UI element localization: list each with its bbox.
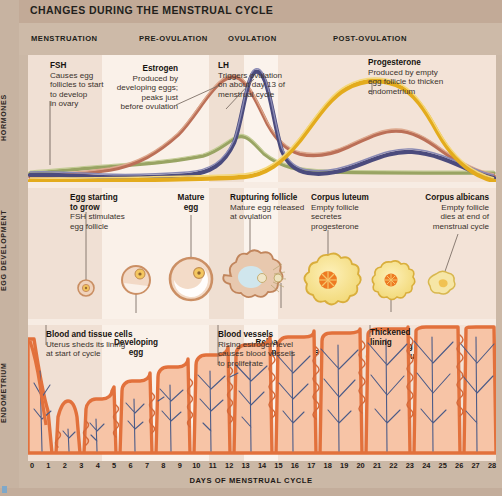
section-label-hormones: HORMONES — [0, 62, 18, 174]
day-tick-15: 15 — [274, 461, 282, 470]
note-blood-tissue-title: Blood and tissue cells — [46, 330, 176, 340]
note-corpus-luteum-l1: Empty follicle — [311, 203, 393, 213]
chart-canvas: FSH Causes egg follicles to start to dev… — [28, 55, 496, 461]
note-corpus-luteum-l3: progesterone — [311, 222, 393, 232]
bottom-margin — [0, 488, 502, 496]
note-blood-vessels: Blood vessels Rising estrogen level caus… — [218, 330, 330, 368]
note-corpus-albicans-l3: menstrual cycle — [383, 222, 489, 232]
note-lh-l2: on about day 13 of — [218, 80, 314, 90]
phase-label-menstruation: MENSTRUATION — [31, 34, 98, 43]
note-corpus-albicans-l2: dies at end of — [383, 212, 489, 222]
note-mature-egg-title-1: Mature — [158, 193, 224, 203]
note-progesterone-title: Progesterone — [368, 58, 478, 68]
follicle-mature — [170, 258, 212, 300]
note-progesterone-l1: Produced by empty — [368, 68, 478, 78]
note-estrogen: Estrogen Produced by developing eggs; pe… — [88, 64, 178, 112]
note-blood-vessels-title: Blood vessels — [218, 330, 330, 340]
note-corpus-albicans-title: Corpus albicans — [383, 193, 489, 203]
day-tick-16: 16 — [291, 461, 299, 470]
day-tick-19: 19 — [340, 461, 348, 470]
note-lh: LH Triggers ovulation on about day 13 of… — [218, 61, 314, 99]
day-tick-8: 8 — [161, 461, 165, 470]
day-tick-28: 28 — [488, 461, 496, 470]
shrinking-corpus-luteum — [372, 261, 415, 300]
day-tick-25: 25 — [439, 461, 447, 470]
day-tick-9: 9 — [178, 461, 182, 470]
note-thickened-lining: Thickened lining — [370, 328, 446, 347]
day-tick-13: 13 — [241, 461, 249, 470]
note-progesterone-l2: egg follicle to thicken — [368, 77, 478, 87]
day-tick-23: 23 — [406, 461, 414, 470]
note-blood-vessels-l1: Rising estrogen level — [218, 340, 330, 350]
day-tick-24: 24 — [422, 461, 430, 470]
day-tick-7: 7 — [145, 461, 149, 470]
note-egg-starting-l2: egg follicle — [70, 222, 162, 232]
phase-header-strip: MENSTRUATION PRE-OVULATION OVULATION POS… — [19, 23, 502, 55]
note-blood-and-tissue-cells: Blood and tissue cells Uterus sheds its … — [46, 330, 176, 359]
corpus-luteum — [304, 254, 360, 305]
day-tick-14: 14 — [258, 461, 266, 470]
day-tick-4: 4 — [96, 461, 100, 470]
day-tick-2: 2 — [63, 461, 67, 470]
note-blood-vessels-l2: causes blood vessels — [218, 349, 330, 359]
note-mature-egg: Mature egg — [158, 193, 224, 212]
phase-label-ovulation: OVULATION — [228, 34, 277, 43]
day-tick-6: 6 — [129, 461, 133, 470]
note-corpus-albicans-l1: Empty follicle — [383, 203, 489, 213]
day-tick-5: 5 — [112, 461, 116, 470]
section-label-endometrium: ENDOMETRIUM — [0, 330, 18, 455]
note-egg-starting-l1: FSH stimulates — [70, 212, 162, 222]
follicle-rupturing — [223, 250, 286, 297]
note-lh-title: LH — [218, 61, 314, 71]
note-estrogen-l1: Produced by — [88, 74, 178, 84]
note-progesterone-l3: endometrium — [368, 87, 478, 97]
day-axis: 0123456789101112131415161718192021222324… — [28, 461, 496, 475]
note-corpus-albicans: Corpus albicans Empty follicle dies at e… — [383, 193, 489, 231]
section-label-egg-development: EGG DEVELOPMENT — [0, 190, 18, 310]
day-tick-0: 0 — [30, 461, 34, 470]
poster-root: CHANGES DURING THE MENSTRUAL CYCLE MENST… — [0, 0, 502, 496]
title-bar: CHANGES DURING THE MENSTRUAL CYCLE — [19, 0, 502, 23]
note-estrogen-l2: developing eggs; — [88, 83, 178, 93]
day-tick-12: 12 — [225, 461, 233, 470]
note-lh-l3: menstrual cycle — [218, 90, 314, 100]
phase-label-post-ovulation: POST-OVULATION — [333, 34, 407, 43]
note-progesterone: Progesterone Produced by empty egg folli… — [368, 58, 478, 96]
note-blood-tissue-l2: at start of cycle — [46, 349, 176, 359]
note-corpus-luteum-title: Corpus luteum — [311, 193, 393, 203]
day-tick-21: 21 — [373, 461, 381, 470]
note-egg-starting-to-grow: Egg starting to grow FSH stimulates egg … — [70, 193, 162, 231]
day-tick-27: 27 — [471, 461, 479, 470]
note-mature-egg-title-2: egg — [158, 203, 224, 213]
note-estrogen-l4: before ovulation — [88, 102, 178, 112]
follicle-primordial — [78, 280, 94, 296]
note-thickened-lining-title-2: lining — [370, 338, 446, 348]
corpus-albicans — [428, 271, 454, 294]
note-estrogen-l3: peaks just — [88, 93, 178, 103]
day-tick-18: 18 — [324, 461, 332, 470]
day-tick-20: 20 — [356, 461, 364, 470]
note-egg-starting-title-1: Egg starting — [70, 193, 162, 203]
day-tick-1: 1 — [46, 461, 50, 470]
day-tick-3: 3 — [79, 461, 83, 470]
phase-label-pre-ovulation: PRE-OVULATION — [139, 34, 208, 43]
note-estrogen-title: Estrogen — [88, 64, 178, 74]
axis-caption: DAYS OF MENSTRUAL CYCLE — [0, 476, 502, 485]
day-tick-10: 10 — [192, 461, 200, 470]
note-corpus-luteum: Corpus luteum Empty follicle secretes pr… — [311, 193, 393, 231]
note-lh-l1: Triggers ovulation — [218, 71, 314, 81]
note-thickened-lining-title-1: Thickened — [370, 328, 446, 338]
day-tick-22: 22 — [389, 461, 397, 470]
note-corpus-luteum-l2: secretes — [311, 212, 393, 222]
day-tick-11: 11 — [209, 461, 217, 470]
page-title: CHANGES DURING THE MENSTRUAL CYCLE — [30, 4, 273, 16]
day-tick-17: 17 — [307, 461, 315, 470]
day-tick-26: 26 — [455, 461, 463, 470]
follicle-developing — [122, 266, 150, 294]
note-blood-tissue-l1: Uterus sheds its lining — [46, 340, 176, 350]
corner-marker — [2, 486, 7, 493]
estrogen-leader — [176, 85, 220, 105]
note-egg-starting-title-2: to grow — [70, 203, 162, 213]
note-blood-vessels-l3: to proliferate — [218, 359, 330, 369]
